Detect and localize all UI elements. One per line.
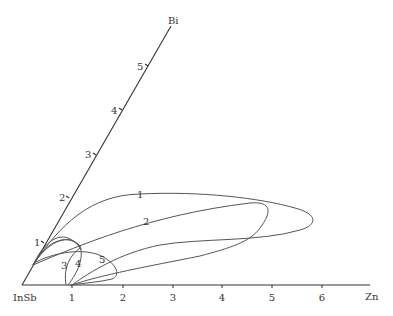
bi-tick-5: 5 xyxy=(137,61,143,72)
zn-tick-5: 5 xyxy=(269,292,275,303)
zn-tick-4: 4 xyxy=(219,292,225,303)
zn-tick-1: 1 xyxy=(69,292,75,303)
bi-tick-2: 2 xyxy=(59,192,65,203)
zn-tick-3: 3 xyxy=(170,292,176,303)
curve-label-5: 5 xyxy=(99,254,105,265)
zn-tick-2: 2 xyxy=(120,292,126,303)
curve-1 xyxy=(33,193,313,285)
phase-diagram: 1 2 3 4 5 6 InSb Zn 1 2 3 4 5 Bi 1 2 3 4… xyxy=(0,0,393,316)
bi-tick-4: 4 xyxy=(111,105,117,116)
curve-label-4: 4 xyxy=(75,258,81,269)
bi-tick-1: 1 xyxy=(34,237,40,248)
curve-2 xyxy=(33,203,268,285)
origin-label: InSb xyxy=(13,292,37,303)
zn-axis-label: Zn xyxy=(365,291,379,302)
curve-label-2: 2 xyxy=(143,216,149,227)
curve-label-1: 1 xyxy=(137,189,143,200)
zn-tick-6: 6 xyxy=(319,292,325,303)
bi-tick-3: 3 xyxy=(85,149,91,160)
bi-axis-ticks xyxy=(41,64,148,243)
curve-label-3: 3 xyxy=(61,260,67,271)
bi-axis-label: Bi xyxy=(168,15,179,26)
bi-axis xyxy=(22,26,171,285)
